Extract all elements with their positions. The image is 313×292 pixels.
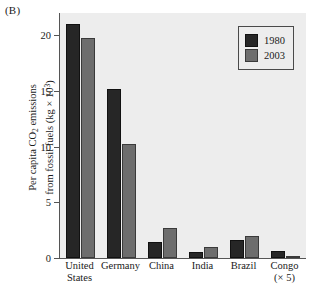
y-axis-tick-label: 0 (46, 253, 51, 264)
legend-entry[interactable]: 2003 (245, 49, 285, 62)
y-axis-tick-label: 10 (41, 141, 52, 152)
legend-swatch-icon (245, 49, 258, 62)
legend: 19802003 (238, 26, 294, 70)
x-axis-tick-label: Germany (100, 260, 141, 284)
legend-label: 2003 (264, 50, 285, 61)
bar[interactable] (81, 38, 95, 259)
y-axis-title-line-2: from fossil fuels (kg × 103) (42, 20, 57, 255)
y-axis-title: Per capita CO2 emissions from fossil fue… (0, 0, 30, 260)
x-axis-labels: UnitedStatesGermanyChinaIndiaBrazilCongo… (59, 260, 305, 284)
co2-subscript: 2 (31, 128, 40, 132)
x-axis-tick-label-line: Congo (264, 260, 305, 272)
x-axis-tick-label: UnitedStates (59, 260, 100, 284)
x-axis-tick-label-line: Germany (100, 260, 141, 272)
bar[interactable] (230, 240, 244, 258)
legend-swatch-icon (245, 34, 258, 47)
bar[interactable] (286, 256, 300, 258)
bar-group (60, 13, 101, 258)
bar[interactable] (148, 242, 162, 258)
x-axis-tick-label: China (141, 260, 182, 284)
y-axis-tick-label: 5 (46, 197, 51, 208)
y-axis-tick-label: 20 (41, 30, 52, 41)
bar[interactable] (245, 236, 259, 258)
x-axis-tick-label: India (182, 260, 223, 284)
bar-group (101, 13, 142, 258)
bar[interactable] (204, 247, 218, 258)
x-axis-tick-label-line: Brazil (223, 260, 264, 272)
y-axis-title-line-1: Per capita CO2 emissions (27, 20, 42, 255)
x-axis-tick-label-line: (× 5) (264, 272, 305, 284)
bar[interactable] (66, 24, 80, 258)
x-axis-tick-label-line: United (59, 260, 100, 272)
bar[interactable] (122, 144, 136, 258)
bar[interactable] (271, 251, 285, 258)
legend-label: 1980 (264, 35, 285, 46)
legend-entry[interactable]: 1980 (245, 34, 285, 47)
x-axis-tick-label: Brazil (223, 260, 264, 284)
x-axis-tick-label-line: India (182, 260, 223, 272)
x-axis-tick-label-line: States (59, 272, 100, 284)
bar[interactable] (189, 252, 203, 258)
x-axis-tick-label: Congo(× 5) (264, 260, 305, 284)
bar[interactable] (107, 89, 121, 258)
x-axis-tick-label-line: China (141, 260, 182, 272)
bar-group (183, 13, 224, 258)
y-axis-tick-label: 15 (41, 85, 52, 96)
bar[interactable] (163, 228, 177, 258)
bar-group (142, 13, 183, 258)
y-axis-tick (54, 258, 60, 259)
